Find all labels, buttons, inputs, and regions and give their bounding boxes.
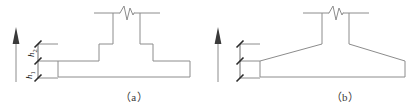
- caption-panel-a: （a）: [104, 88, 164, 104]
- elevation-arrow-icon: [215, 27, 222, 82]
- sloped-footing-outline: [260, 44, 405, 77]
- panel-sloped-footing: h2 h1: [209, 0, 418, 110]
- sloped-footing-drawing: [209, 0, 418, 110]
- dimension-label-h1: h1: [24, 71, 36, 79]
- stepped-footing-outline: [58, 44, 190, 77]
- dimension-group-h: [35, 41, 59, 82]
- break-line-icon: [120, 6, 134, 20]
- dimension-label-h2: h2: [26, 49, 38, 57]
- elevation-arrow-icon: [13, 27, 20, 82]
- break-line-icon: [329, 6, 343, 20]
- footing-types-figure: h2 h1: [0, 0, 418, 110]
- caption-panel-b: （b）: [315, 88, 375, 104]
- dimension-group-h: [237, 41, 261, 82]
